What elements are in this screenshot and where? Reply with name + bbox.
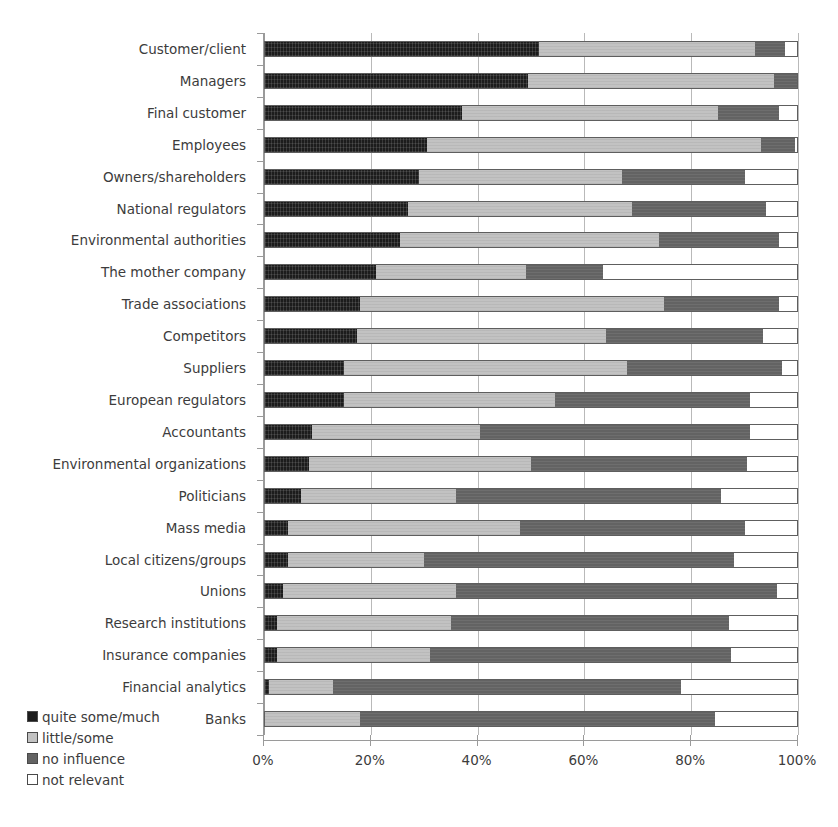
bar-segment <box>430 647 732 663</box>
bar-segment <box>782 360 798 376</box>
category-label: Environmental authorities <box>0 232 246 248</box>
bar-segment <box>309 456 531 472</box>
bar-segment <box>264 169 419 185</box>
bar-row <box>264 41 798 57</box>
bar-segment <box>424 552 734 568</box>
legend-item[interactable]: no influence <box>27 748 160 769</box>
x-axis-tick-label: 0% <box>228 752 298 768</box>
bar-segment <box>264 552 288 568</box>
bar-row <box>264 360 798 376</box>
x-axis-tick <box>690 735 691 746</box>
category-tick <box>257 416 263 417</box>
category-axis: Customer/clientManagersFinal customerEmp… <box>0 33 256 735</box>
category-tick <box>257 384 263 385</box>
category-tick <box>257 544 263 545</box>
bar-segment <box>785 41 798 57</box>
bar-segment <box>718 105 779 121</box>
bar-segment <box>264 392 344 408</box>
category-label: European regulators <box>0 392 246 408</box>
category-tick <box>257 256 263 257</box>
category-tick <box>257 448 263 449</box>
bar-segment <box>264 105 462 121</box>
category-tick <box>257 97 263 98</box>
bar-segment <box>526 264 603 280</box>
category-tick <box>257 512 263 513</box>
category-tick <box>257 352 263 353</box>
bar-segment <box>763 328 798 344</box>
bar-segment <box>747 456 798 472</box>
category-label: National regulators <box>0 201 246 217</box>
bar-segment <box>555 392 750 408</box>
x-axis-tick-label: 80% <box>655 752 725 768</box>
bar-segment <box>729 615 798 631</box>
bar-segment <box>451 615 729 631</box>
x-axis-tick <box>370 735 371 746</box>
category-label: Employees <box>0 137 246 153</box>
bar-row <box>264 552 798 568</box>
x-axis-tick <box>797 735 798 746</box>
category-tick <box>257 639 263 640</box>
category-tick <box>257 129 263 130</box>
bar-segment <box>745 169 798 185</box>
bar-segment <box>520 520 744 536</box>
chart-legend: quite some/muchlittle/someno influenceno… <box>27 706 160 790</box>
bar-segment <box>622 169 745 185</box>
category-tick <box>257 607 263 608</box>
bar-segment <box>269 679 333 695</box>
x-axis-tick <box>477 735 478 746</box>
legend-swatch-icon <box>27 732 38 743</box>
bar-segment <box>779 232 798 248</box>
bar-segment <box>777 583 798 599</box>
category-label: Suppliers <box>0 360 246 376</box>
stacked-bar-chart: Customer/clientManagersFinal customerEmp… <box>0 0 838 827</box>
category-tick <box>257 193 263 194</box>
bar-segment <box>264 232 400 248</box>
x-axis-tick-label: 60% <box>548 752 618 768</box>
legend-label: little/some <box>42 731 113 745</box>
bar-segment <box>264 711 360 727</box>
bar-segment <box>779 105 798 121</box>
bar-segment <box>659 232 779 248</box>
bar-segment <box>462 105 718 121</box>
bar-segment <box>750 392 798 408</box>
bar-segment <box>606 328 764 344</box>
bar-segment <box>360 296 664 312</box>
bar-segment <box>761 137 796 153</box>
bar-segment <box>715 711 798 727</box>
bar-segment <box>344 392 555 408</box>
bar-segment <box>531 456 747 472</box>
bar-segment <box>264 456 309 472</box>
bar-row <box>264 520 798 536</box>
bar-segment <box>360 711 715 727</box>
legend-item[interactable]: not relevant <box>27 769 160 790</box>
bar-row <box>264 105 798 121</box>
legend-label: quite some/much <box>42 710 160 724</box>
category-tick <box>257 575 263 576</box>
bar-segment <box>681 679 798 695</box>
category-label: Trade associations <box>0 296 246 312</box>
x-axis-tick-label: 20% <box>335 752 405 768</box>
bar-row <box>264 615 798 631</box>
bar-row <box>264 296 798 312</box>
bar-segment <box>745 520 798 536</box>
category-label: The mother company <box>0 264 246 280</box>
plot-area <box>263 33 798 735</box>
bar-segment <box>312 424 480 440</box>
category-tick <box>257 703 263 704</box>
legend-item[interactable]: quite some/much <box>27 706 160 727</box>
category-tick <box>257 671 263 672</box>
bar-row <box>264 73 798 89</box>
bar-segment <box>277 615 451 631</box>
category-label: Politicians <box>0 488 246 504</box>
bar-segment <box>539 41 755 57</box>
bar-segment <box>333 679 680 695</box>
bar-row <box>264 711 798 727</box>
bar-segment <box>277 647 429 663</box>
legend-item[interactable]: little/some <box>27 727 160 748</box>
bar-segment <box>264 615 277 631</box>
bar-segment <box>288 520 520 536</box>
bar-row <box>264 328 798 344</box>
category-label: Final customer <box>0 105 246 121</box>
gridline <box>798 33 799 735</box>
bar-segment <box>721 488 798 504</box>
